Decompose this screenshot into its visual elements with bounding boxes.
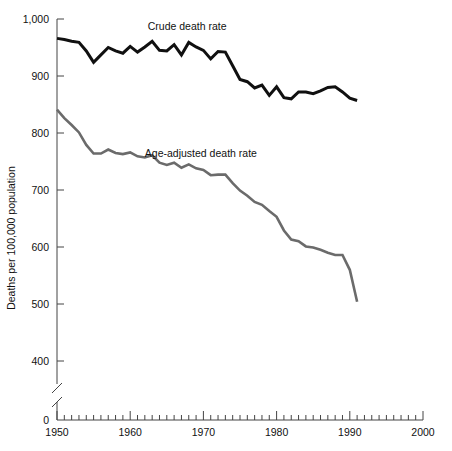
y-tick-label-500: 500	[5, 299, 49, 310]
y-tick-label-700: 700	[5, 185, 49, 196]
x-tick-label-1970: 1970	[181, 427, 225, 438]
y-tick-label-0: 0	[5, 415, 49, 426]
x-tick-label-1960: 1960	[108, 427, 152, 438]
x-tick-label-1950: 1950	[35, 427, 79, 438]
y-tick-label-900: 900	[5, 71, 49, 82]
x-tick-label-2000: 2000	[401, 427, 445, 438]
series-line-crude-death-rate	[57, 38, 357, 100]
x-tick-label-1980: 1980	[255, 427, 299, 438]
chart-plot-area	[0, 0, 452, 451]
series-label-crude-death-rate: Crude death rate	[148, 20, 227, 32]
y-tick-label-1000: 1,000	[5, 14, 49, 25]
chart-figure: Deaths per 100,000 population 0400500600…	[0, 0, 452, 451]
y-tick-label-600: 600	[5, 242, 49, 253]
y-tick-label-400: 400	[5, 356, 49, 367]
x-tick-label-1990: 1990	[328, 427, 372, 438]
series-label-age-adjusted-death-rate: Age-adjusted death rate	[145, 147, 257, 159]
axis-break-slash-upper	[52, 383, 62, 393]
y-tick-label-800: 800	[5, 128, 49, 139]
series-line-age-adjusted-death-rate	[57, 110, 357, 302]
